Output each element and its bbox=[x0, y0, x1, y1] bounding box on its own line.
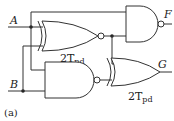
wire-b-to-xnor bbox=[23, 46, 43, 91]
nand-b-body bbox=[45, 62, 94, 98]
xnor-gate bbox=[38, 21, 104, 51]
xor-extra-arc bbox=[107, 58, 111, 86]
output-g-label: G bbox=[158, 58, 167, 71]
xor-delay-label: 2Tpd bbox=[128, 90, 153, 104]
nand-f-gate bbox=[126, 6, 164, 42]
input-a-label: A bbox=[9, 14, 18, 27]
output-f-label: F bbox=[163, 8, 172, 21]
logic-circuit-diagram: A B 2Tpd F G 2Tpd (a) bbox=[0, 0, 174, 121]
nand-f-bubble bbox=[158, 21, 164, 27]
figure-caption: (a) bbox=[4, 107, 18, 118]
xor-g-gate bbox=[107, 58, 160, 86]
nand-b-gate bbox=[45, 62, 100, 98]
nand-f-body bbox=[126, 6, 158, 42]
xnor-bubble bbox=[98, 33, 104, 39]
input-b-label: B bbox=[9, 78, 18, 91]
xnor-body bbox=[42, 21, 98, 51]
nand-b-bubble bbox=[94, 77, 100, 83]
xor-g-body bbox=[111, 58, 160, 86]
